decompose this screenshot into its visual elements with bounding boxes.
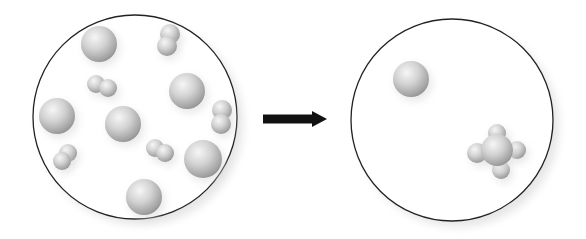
- atom-sphere: [39, 98, 75, 134]
- reaction-arrow: [263, 111, 327, 127]
- atom-sphere: [169, 73, 205, 109]
- reaction-diagram: [0, 0, 586, 239]
- arrow-shaft: [263, 115, 313, 124]
- atom-sphere: [393, 61, 429, 97]
- after-container: [351, 19, 559, 227]
- atom-sphere: [53, 152, 71, 170]
- atom-sphere: [81, 26, 117, 62]
- atom-sphere: [99, 79, 117, 97]
- atom-sphere: [105, 106, 141, 142]
- container-circle: [351, 19, 553, 221]
- atom-sphere: [184, 140, 222, 178]
- arrow-head-icon: [312, 111, 327, 127]
- atom-sphere: [157, 36, 177, 56]
- atom-sphere: [156, 144, 174, 162]
- cluster-core: [481, 134, 513, 166]
- before-container: [33, 15, 243, 225]
- atom-sphere: [126, 179, 162, 215]
- atom-sphere: [211, 114, 231, 134]
